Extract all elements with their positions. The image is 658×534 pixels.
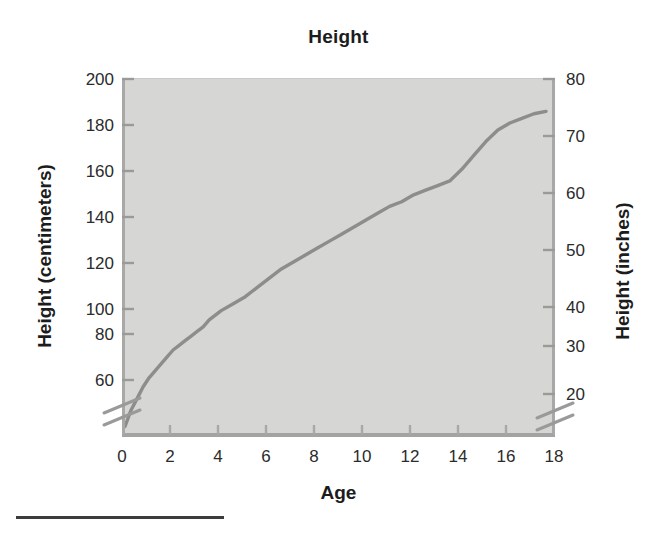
x-tick-label: 6 [246,448,286,465]
x-tick-label: 2 [150,448,190,465]
x-tick-label: 16 [486,448,526,465]
x-tick-label: 14 [438,448,478,465]
x-tick-label: 8 [294,448,334,465]
height-growth-chart-figure: Height 200 180 160 140 120 100 80 60 80 … [0,0,658,534]
x-axis-tick-labels: 0 2 4 6 8 10 12 14 16 18 [0,0,658,534]
y-axis-left-title: Height (centimeters) [34,106,56,406]
x-tick-label: 12 [390,448,430,465]
bottom-rule [16,516,224,519]
y-axis-right-title: Height (inches) [612,121,634,421]
x-tick-label: 10 [342,448,382,465]
x-tick-label: 4 [198,448,238,465]
x-tick-label: 0 [102,448,142,465]
x-axis-title: Age [122,482,555,504]
x-tick-label: 18 [534,448,574,465]
